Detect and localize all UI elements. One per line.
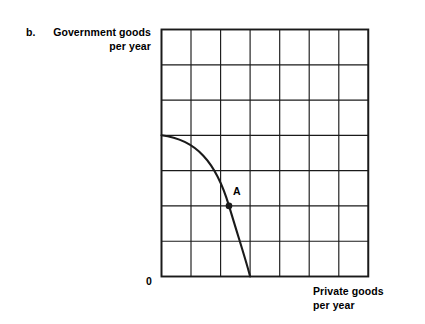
grid-vertical-lines [162, 30, 369, 277]
grid-horizontal-lines [162, 30, 369, 277]
point-a-marker [226, 203, 233, 210]
plot-area [0, 0, 425, 324]
plot-box-border [162, 30, 369, 277]
ppf-figure-panel-b: b. Government goods per year Private goo… [0, 0, 425, 324]
